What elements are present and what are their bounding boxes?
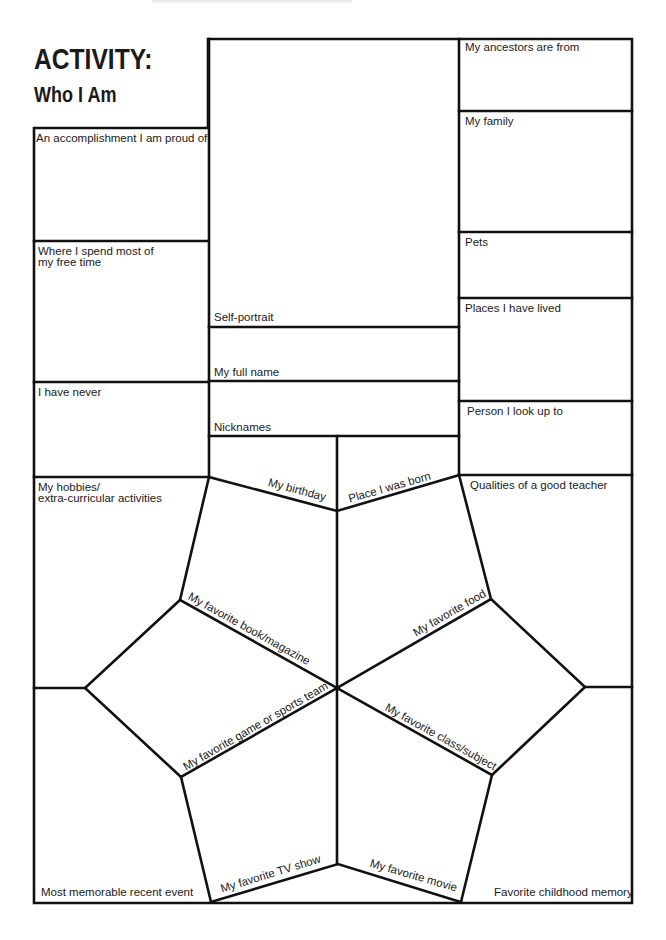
- box-nicknames-label: Nicknames: [214, 421, 271, 433]
- box-memorable-event-label: Most memorable recent event: [41, 886, 193, 898]
- box-hobbies-label-line2: extra-curricular activities: [38, 492, 162, 504]
- box-childhood-memory-label: Favorite childhood memory: [494, 886, 633, 898]
- box-pets-label: Pets: [465, 236, 488, 248]
- box-family-label: My family: [465, 115, 514, 127]
- box-person-look-up-label: Person I look up to: [467, 405, 563, 417]
- box-free-time-label-line2: my free time: [38, 256, 101, 268]
- box-self-portrait-label: Self-portrait: [214, 311, 273, 323]
- box-full-name-label: My full name: [214, 366, 279, 378]
- box-ancestors-label: My ancestors are from: [465, 41, 579, 53]
- box-never-label: I have never: [38, 386, 101, 398]
- box-teacher-qualities-label: Qualities of a good teacher: [470, 479, 607, 491]
- box-accomplishment-label: An accomplishment I am proud of: [36, 132, 207, 144]
- box-places-lived-label: Places I have lived: [465, 302, 561, 314]
